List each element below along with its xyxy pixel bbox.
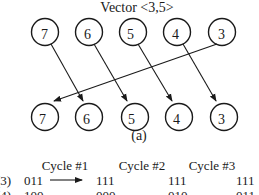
node-label: 3 [218, 112, 225, 127]
diagram-title: Vector <3,5> [100, 0, 173, 15]
node-label: 6 [84, 27, 91, 42]
row-label: (3) [0, 173, 11, 188]
figure-caption: (a) [131, 128, 147, 144]
node-label: 4 [172, 27, 179, 42]
node-label: 7 [41, 27, 48, 42]
edge-4-to-3 [183, 44, 216, 101]
top-node-7: 7 [32, 19, 59, 46]
row-cycle2: 010 [168, 188, 188, 195]
row-initial: 011 [24, 173, 43, 188]
bottom-node-4: 4 [166, 104, 193, 131]
table-row: (4) 100 000 010 011 [0, 188, 255, 195]
header-cycle-3: Cycle #3 [189, 158, 236, 173]
node-label: 4 [173, 112, 180, 127]
bottom-node-7: 7 [32, 104, 59, 131]
rotation-diagram: Vector <3,5> 7 6 5 4 3 7 6 5 4 [0, 0, 259, 195]
top-node-3: 3 [209, 19, 236, 46]
top-node-5: 5 [120, 19, 147, 46]
bottom-node-3: 3 [211, 104, 238, 131]
row-cycle3: 011 [236, 188, 255, 195]
top-node-4: 4 [164, 19, 191, 46]
header-cycle-2: Cycle #2 [119, 158, 166, 173]
table-row: (3) 011 111 111 111 [0, 173, 255, 188]
edge-6-to-5 [94, 44, 127, 101]
header-cycle-1: Cycle #1 [42, 158, 89, 173]
edge-3-to-7 [54, 44, 217, 101]
node-label: 6 [83, 112, 90, 127]
node-label: 7 [39, 112, 46, 127]
top-node-6: 6 [76, 19, 103, 46]
row-cycle1: 000 [96, 188, 116, 195]
row-cycle1: 111 [96, 173, 115, 188]
node-label: 5 [127, 27, 134, 42]
edge-5-to-4 [138, 44, 172, 101]
node-label: 5 [128, 112, 135, 127]
bottom-node-6: 6 [76, 104, 103, 131]
row-initial: 100 [24, 188, 44, 195]
row-cycle3: 111 [236, 173, 255, 188]
row-cycle2: 111 [168, 173, 187, 188]
row-label: (4) [0, 188, 11, 195]
bottom-node-5: 5 [122, 104, 149, 131]
node-label: 3 [218, 27, 225, 42]
